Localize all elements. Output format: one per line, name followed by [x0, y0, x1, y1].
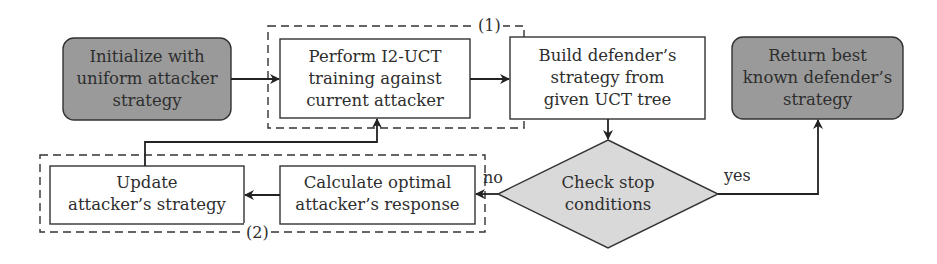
flowchart-canvas [0, 0, 937, 264]
group-2-label: (2) [244, 223, 271, 242]
group-1-label: (1) [476, 16, 503, 35]
node-check-stop-label: Check stop conditions [528, 172, 688, 216]
edge-yes-label: yes [722, 166, 753, 185]
edge-update-to-train [145, 119, 377, 166]
node-return-label: Return best known defender’s strategy [732, 45, 903, 111]
node-calculate-label: Calculate optimal attacker’s response [280, 172, 475, 216]
node-train-label: Perform I2-UCT training against current … [280, 46, 470, 112]
node-update-label: Update attacker’s strategy [50, 172, 244, 216]
node-build-label: Build defender’s strategy from given UCT… [510, 45, 705, 111]
node-initialize-label: Initialize with uniform attacker strateg… [63, 46, 231, 112]
edge-no-label: no [481, 168, 505, 187]
